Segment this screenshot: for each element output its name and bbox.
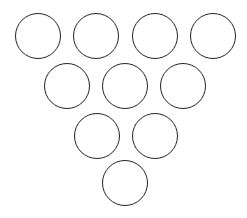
circle (160, 63, 206, 109)
circle (132, 113, 178, 159)
circle (44, 63, 90, 109)
circle (74, 113, 120, 159)
circle (73, 13, 119, 59)
circle (102, 63, 148, 109)
circle (190, 13, 236, 59)
circle (15, 13, 61, 59)
circle-triangle-diagram (0, 0, 247, 218)
circle (132, 13, 178, 59)
circle (102, 160, 148, 206)
